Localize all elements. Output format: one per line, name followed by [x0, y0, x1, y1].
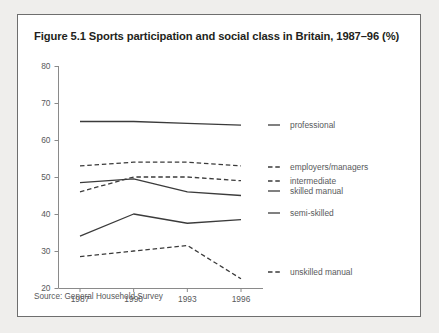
series-line-skilled-manual [80, 179, 241, 196]
y-tick-label: 70 [41, 98, 51, 108]
x-tick-label: 1987 [71, 294, 90, 304]
y-tick-label: 40 [41, 209, 51, 219]
y-tick-label: 60 [41, 135, 51, 145]
series-label-skilled-manual: skilled manual [290, 186, 343, 196]
series-group [80, 122, 241, 279]
series-label-unskilled-manual: unskilled manual [290, 267, 353, 277]
series-label-employers-managers: employers/managers [290, 162, 368, 172]
series-line-professional [80, 122, 241, 126]
series-line-unskilled-manual [80, 245, 241, 278]
y-tick-label: 50 [41, 172, 51, 182]
line-chart: 80706050403020 1987199019931996 professi… [0, 0, 439, 333]
x-tick-group: 1987199019931996 [71, 288, 251, 304]
series-label-semi-skilled: semi-skilled [290, 208, 334, 218]
y-tick-label: 20 [41, 283, 51, 293]
series-line-employers-managers [80, 162, 241, 166]
series-label-intermediate: intermediate [290, 176, 336, 186]
series-label-professional: professional [290, 120, 335, 130]
x-tick-label: 1990 [124, 294, 143, 304]
series-line-intermediate [80, 177, 241, 192]
x-tick-label: 1996 [232, 294, 251, 304]
series-line-semi-skilled [80, 214, 241, 236]
y-tick-group: 80706050403020 [41, 61, 58, 293]
series-label-group: professionalemployers/managersintermedia… [268, 120, 368, 277]
y-tick-label: 30 [41, 246, 51, 256]
y-tick-label: 80 [41, 61, 51, 71]
x-tick-label: 1993 [178, 294, 197, 304]
